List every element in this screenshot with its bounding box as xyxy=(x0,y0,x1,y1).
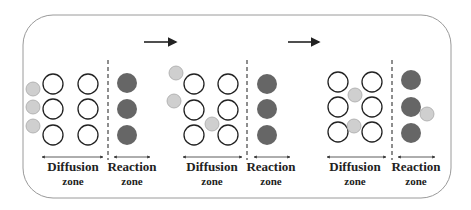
diffusion-pore-circle xyxy=(43,125,63,145)
reactant-molecule-circle xyxy=(26,100,40,114)
reaction-zone-label-sub: zone xyxy=(246,175,295,187)
reaction-site-circle xyxy=(117,125,137,145)
diffusion-pore-circle xyxy=(328,72,348,92)
reaction-site-circle xyxy=(401,97,421,117)
reaction-site-circle xyxy=(401,123,421,143)
diffusion-zone-label-title: Diffusion xyxy=(186,160,237,173)
diffusion-pore-circle xyxy=(184,74,204,94)
reaction-zone-label-title: Reaction xyxy=(246,160,295,173)
reactant-molecule-circle xyxy=(167,94,181,108)
diffusion-pore-circle xyxy=(362,72,382,92)
reaction-zone-label-title: Reaction xyxy=(107,160,156,173)
reaction-site-circle xyxy=(117,99,137,119)
stage-panels xyxy=(26,60,435,160)
diffusion-pore-circle xyxy=(78,99,98,119)
diffusion-zone-label: Diffusionzone xyxy=(47,160,98,187)
diffusion-pore-circle xyxy=(184,100,204,120)
diffusion-pore-circle xyxy=(328,122,348,142)
diffusion-pore-circle xyxy=(362,122,382,142)
diffusion-zone-label-sub: zone xyxy=(47,175,98,187)
diffusion-zone-label-sub: zone xyxy=(329,175,380,187)
diffusion-pore-circle xyxy=(43,74,63,94)
reactant-molecule-circle xyxy=(205,117,219,131)
diffusion-zone-label-title: Diffusion xyxy=(47,160,98,173)
reaction-zone-label-sub: zone xyxy=(107,175,156,187)
reactant-molecule-circle xyxy=(347,119,361,133)
diffusion-zone-label-title: Diffusion xyxy=(329,160,380,173)
panel-stage-2 xyxy=(167,60,290,160)
reaction-zone-label: Reactionzone xyxy=(391,160,440,187)
diffusion-pore-circle xyxy=(78,125,98,145)
reaction-site-circle xyxy=(401,70,421,90)
diffusion-pore-circle xyxy=(78,74,98,94)
reactant-molecule-circle xyxy=(26,119,40,133)
diffusion-zone-label: Diffusionzone xyxy=(329,160,380,187)
diffusion-pore-circle xyxy=(328,97,348,117)
reaction-site-circle xyxy=(257,125,277,145)
reaction-zone-label-title: Reaction xyxy=(391,160,440,173)
reactant-molecule-circle xyxy=(169,66,183,80)
diffusion-reaction-diagram: DiffusionzoneReactionzoneDiffusionzoneRe… xyxy=(0,0,471,210)
diffusion-pore-circle xyxy=(362,97,382,117)
reaction-zone-label-sub: zone xyxy=(391,175,440,187)
diffusion-pore-circle xyxy=(218,100,238,120)
reaction-site-circle xyxy=(117,73,137,93)
reactant-molecule-circle xyxy=(420,107,434,121)
diffusion-pore-circle xyxy=(43,99,63,119)
panel-stage-3 xyxy=(327,60,435,160)
diffusion-pore-circle xyxy=(218,125,238,145)
diffusion-pore-circle xyxy=(184,125,204,145)
reactant-molecule-circle xyxy=(348,88,362,102)
reaction-site-circle xyxy=(257,74,277,94)
reactant-molecule-circle xyxy=(26,82,40,96)
reaction-site-circle xyxy=(257,99,277,119)
panel-stage-1 xyxy=(26,60,150,160)
diffusion-zone-label: Diffusionzone xyxy=(186,160,237,187)
reaction-zone-label: Reactionzone xyxy=(107,160,156,187)
reaction-zone-label: Reactionzone xyxy=(246,160,295,187)
diffusion-zone-label-sub: zone xyxy=(186,175,237,187)
diffusion-pore-circle xyxy=(218,74,238,94)
